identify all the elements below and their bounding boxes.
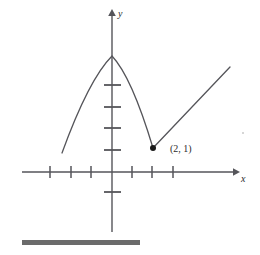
x-axis-arrowhead — [233, 168, 240, 176]
y-axis-label: y — [117, 8, 123, 19]
ray-segment — [153, 67, 230, 148]
marked-point-dot — [150, 145, 156, 151]
graph-figure: y x (2, 1) — [0, 0, 260, 255]
graph-canvas: y x (2, 1) — [0, 0, 260, 255]
marked-point-label: (2, 1) — [170, 143, 192, 155]
footer-gray-bar — [22, 240, 140, 245]
speck-artifact — [242, 132, 244, 134]
y-axis-arrowhead — [108, 9, 116, 16]
x-axis-label: x — [240, 173, 246, 184]
parabola-curve — [62, 56, 153, 153]
